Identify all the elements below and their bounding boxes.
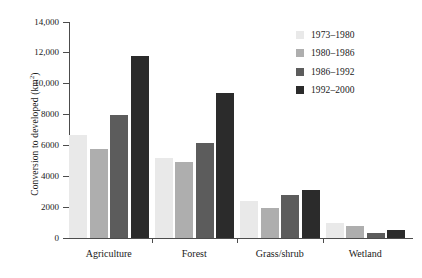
bar [387, 230, 405, 238]
legend-color-swatch [296, 49, 304, 57]
legend: 1973–19801980–19861986–19921992–2000 [296, 27, 355, 101]
bar [131, 56, 149, 238]
legend-label: 1986–1992 [311, 67, 355, 77]
y-axis-tick-label: 0 [0, 232, 59, 245]
bar [326, 223, 344, 238]
x-axis-tick-mark [323, 238, 324, 243]
x-axis-tick-mark [237, 238, 238, 243]
plot-area [70, 22, 412, 238]
y-axis-tick-mark [63, 83, 69, 84]
bar [346, 226, 364, 238]
y-axis-tick-label: 10,000 [0, 77, 59, 90]
y-axis-tick-mark [63, 114, 69, 115]
bar [90, 149, 108, 238]
legend-label: 1992–2000 [311, 85, 355, 95]
bar [196, 143, 214, 238]
y-axis-tick-label: 12,000 [0, 46, 59, 59]
y-axis-tick-mark [63, 22, 69, 23]
legend-item: 1986–1992 [296, 64, 355, 79]
y-axis-tick-label: 4000 [0, 170, 59, 183]
legend-color-swatch [296, 68, 304, 76]
legend-label: 1980–1986 [311, 48, 355, 58]
legend-color-swatch [296, 86, 304, 94]
bar [240, 201, 258, 238]
legend-item: 1973–1980 [296, 27, 355, 42]
legend-item: 1992–2000 [296, 83, 355, 98]
bar [155, 158, 173, 238]
y-axis-tick-label: 2000 [0, 201, 59, 214]
y-axis-tick-label: 14,000 [0, 16, 59, 29]
legend-label: 1973–1980 [311, 30, 355, 40]
legend-color-swatch [296, 31, 304, 39]
y-axis-title-paren: ) [30, 72, 40, 75]
bar [216, 93, 234, 238]
x-axis-line [69, 238, 413, 239]
bar [175, 162, 193, 238]
bar [69, 135, 87, 238]
x-axis-group-label: Wetland [315, 248, 415, 259]
bar [302, 190, 320, 238]
y-axis-tick-label: 8000 [0, 108, 59, 121]
bar [110, 115, 128, 238]
bar [281, 195, 299, 238]
bar [367, 233, 385, 238]
y-axis-tick-mark [63, 52, 69, 53]
bar-chart: Conversion to developed (km2) 0200040006… [0, 0, 422, 278]
bar [261, 208, 279, 238]
legend-item: 1980–1986 [296, 46, 355, 61]
x-axis-tick-mark [152, 238, 153, 243]
y-axis-tick-label: 6000 [0, 139, 59, 152]
